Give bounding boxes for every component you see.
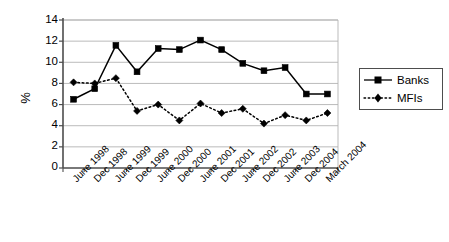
legend-entry-mfis: MFIs — [363, 90, 441, 106]
legend-swatch-mfis — [363, 91, 393, 105]
chart-container: % 14 12 10 8 6 4 2 0 June 1998Dec 1998Ju… — [0, 0, 449, 242]
x-axis-tick-labels: June 1998Dec 1998June 1999Dec 1999June 2… — [0, 0, 449, 242]
legend-entry-banks: Banks — [363, 72, 441, 88]
legend-label-mfis: MFIs — [397, 92, 423, 104]
chart-legend: Banks MFIs — [359, 68, 443, 110]
legend-swatch-banks — [363, 73, 393, 87]
legend-label-banks: Banks — [397, 74, 429, 86]
